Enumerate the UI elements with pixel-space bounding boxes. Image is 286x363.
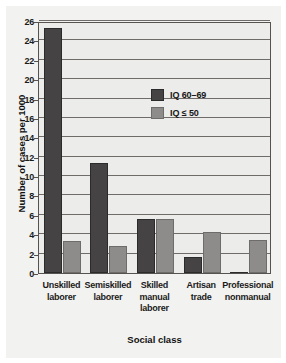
legend-label: IQ 60–69 bbox=[170, 90, 206, 100]
bar bbox=[63, 241, 81, 273]
bar bbox=[249, 240, 267, 273]
bar bbox=[137, 219, 155, 273]
bar bbox=[230, 272, 248, 274]
y-axis-tick-label: 18 bbox=[10, 95, 34, 105]
bar bbox=[109, 246, 127, 273]
figure-border-left bbox=[0, 0, 6, 363]
y-axis-tick-label: 26 bbox=[10, 17, 34, 27]
bar-group bbox=[137, 23, 174, 273]
bar-group bbox=[184, 23, 221, 273]
y-axis-tick-label: 20 bbox=[10, 75, 34, 85]
bar-group bbox=[44, 23, 81, 273]
legend-swatch bbox=[151, 89, 164, 101]
y-axis-tick-label: 10 bbox=[10, 172, 34, 182]
bar bbox=[184, 257, 202, 273]
y-axis-tick-label: 14 bbox=[10, 133, 34, 143]
y-axis-tick-label: 24 bbox=[10, 36, 34, 46]
gridline bbox=[39, 20, 270, 21]
x-axis-tick-label: Professionalnonmanual bbox=[218, 280, 277, 303]
legend-label: IQ ≤ 50 bbox=[170, 108, 199, 118]
x-axis-title: Social class bbox=[38, 334, 271, 345]
figure-border-bottom bbox=[0, 358, 286, 363]
bar bbox=[203, 232, 221, 273]
y-axis-tick-mark bbox=[34, 274, 38, 275]
legend-item: IQ ≤ 50 bbox=[151, 105, 206, 120]
chart-figure: Number of cases per 1000 024681012141618… bbox=[0, 0, 286, 363]
bar-group bbox=[90, 23, 127, 273]
y-axis-tick-label: 8 bbox=[10, 191, 34, 201]
y-axis-tick-label: 22 bbox=[10, 56, 34, 66]
y-axis-tick-label: 16 bbox=[10, 114, 34, 124]
legend-swatch bbox=[151, 107, 164, 119]
plot-area: IQ 60–69IQ ≤ 50 bbox=[38, 22, 271, 274]
y-axis-tick-label: 2 bbox=[10, 250, 34, 260]
y-axis-tick-label: 12 bbox=[10, 153, 34, 163]
bar bbox=[90, 163, 108, 273]
figure-border-right bbox=[281, 0, 286, 363]
y-axis-tick-label: 0 bbox=[10, 269, 34, 279]
bar-group bbox=[230, 23, 267, 273]
y-axis-tick-label: 6 bbox=[10, 211, 34, 221]
bar bbox=[44, 28, 62, 273]
legend-item: IQ 60–69 bbox=[151, 87, 206, 102]
bar bbox=[156, 219, 174, 273]
y-axis-tick-label: 4 bbox=[10, 230, 34, 240]
figure-border-top bbox=[0, 0, 286, 6]
legend: IQ 60–69IQ ≤ 50 bbox=[151, 87, 206, 123]
